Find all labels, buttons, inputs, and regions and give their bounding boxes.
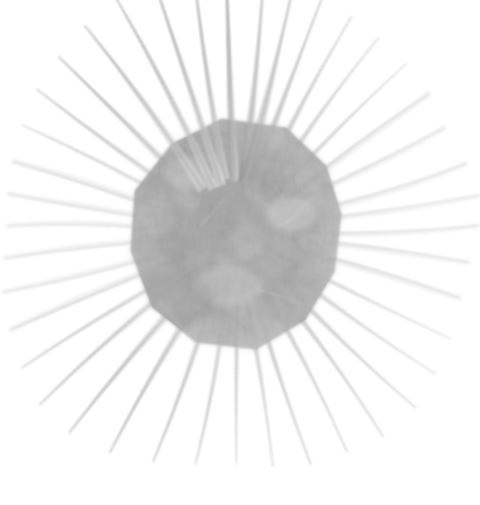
specimen-image-canvas: Faded grayscale specimen photograph of a… (0, 0, 480, 505)
body-highlight-right (266, 197, 318, 231)
specimen-illustration (0, 0, 480, 505)
